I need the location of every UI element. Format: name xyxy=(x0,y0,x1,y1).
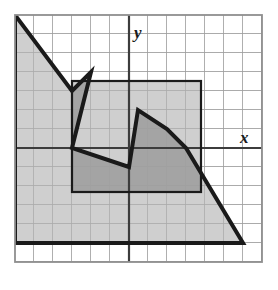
x-axis-label: x xyxy=(239,128,249,147)
grid-svg: y x xyxy=(0,0,278,290)
y-axis-label: y xyxy=(132,23,142,42)
coordinate-grid-figure: y x xyxy=(0,0,278,290)
grid-lines-overlay xyxy=(15,15,262,262)
